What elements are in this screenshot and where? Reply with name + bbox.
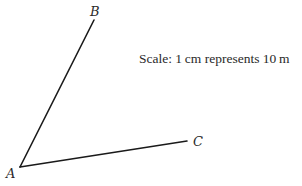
point-label-c: C [193, 135, 203, 148]
diagram-canvas: B A C Scale: 1 cm represents 10 m [0, 0, 302, 186]
point-label-a: A [6, 167, 15, 180]
diagram-lines [0, 0, 302, 186]
segment-AC [20, 141, 187, 167]
point-label-b: B [90, 5, 100, 18]
segment-AB [20, 20, 94, 167]
scale-note: Scale: 1 cm represents 10 m [139, 52, 289, 66]
